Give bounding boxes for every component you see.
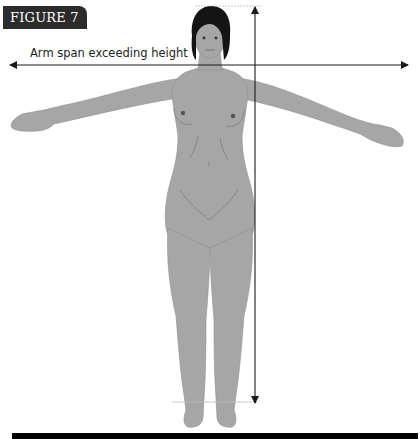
bottom-rule: [12, 433, 418, 439]
torso: [165, 68, 255, 248]
left-arm: [11, 78, 182, 131]
right-leg: [210, 228, 253, 427]
anatomy-illustration: [0, 0, 420, 439]
right-arm: [238, 78, 403, 147]
female-figure: [11, 18, 403, 427]
left-leg: [167, 228, 210, 427]
